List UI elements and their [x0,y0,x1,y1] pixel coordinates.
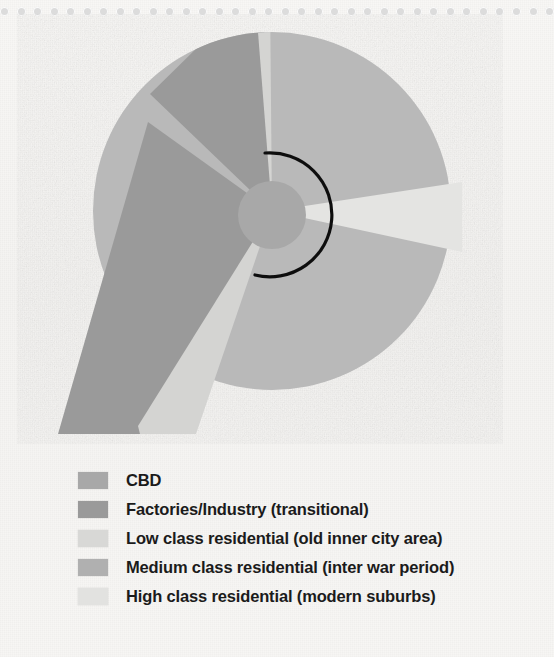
hoyt-sector-model-diagram [0,14,554,444]
legend-label-cbd: CBD [126,471,161,490]
legend-item-high-class[interactable]: High class residential (modern suburbs) [78,582,538,611]
legend-item-medium-class[interactable]: Medium class residential (inter war peri… [78,553,538,582]
legend-swatch-medium-class [78,559,108,576]
legend-label-low-class: Low class residential (old inner city ar… [126,529,442,548]
legend: CBD Factories/Industry (transitional) Lo… [78,466,538,611]
legend-swatch-cbd [78,472,108,489]
legend-label-factories: Factories/Industry (transitional) [126,500,369,519]
legend-swatch-low-class [78,530,108,547]
legend-item-low-class[interactable]: Low class residential (old inner city ar… [78,524,538,553]
legend-swatch-factories [78,501,108,518]
legend-label-medium-class: Medium class residential (inter war peri… [126,558,454,577]
sector-cbd [238,181,306,249]
legend-swatch-high-class [78,588,108,605]
legend-item-factories[interactable]: Factories/Industry (transitional) [78,495,538,524]
legend-item-cbd[interactable]: CBD [78,466,538,495]
legend-label-high-class: High class residential (modern suburbs) [126,587,436,606]
